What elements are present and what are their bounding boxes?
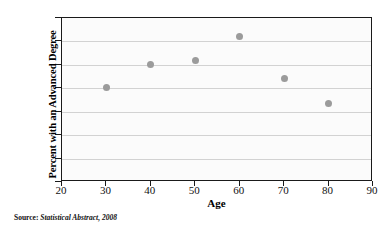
data-point xyxy=(325,100,332,107)
x-axis-tick-label: 30 xyxy=(85,185,125,196)
x-axis-tick-label: 40 xyxy=(130,185,170,196)
plot-canvas xyxy=(62,18,371,180)
plot-area xyxy=(61,17,372,181)
x-axis-tick-label: 80 xyxy=(308,185,348,196)
gridline xyxy=(62,65,371,66)
x-axis-tick-label: 50 xyxy=(174,185,214,196)
data-point xyxy=(236,33,243,40)
gridline xyxy=(62,41,371,42)
x-axis-title: Age xyxy=(61,197,372,209)
source-note: Source: Statistical Abstract, 2008 xyxy=(14,213,117,222)
data-point xyxy=(281,75,288,82)
x-axis-tick-label: 70 xyxy=(263,185,303,196)
scatter-plot-figure: 02468101214 2030405060708090 Percent wit… xyxy=(0,0,389,230)
x-axis-tick-label: 90 xyxy=(352,185,389,196)
gridline xyxy=(62,135,371,136)
x-axis-tick-label: 60 xyxy=(219,185,259,196)
source-label: Source: xyxy=(14,213,38,222)
gridline xyxy=(62,159,371,160)
gridline xyxy=(62,112,371,113)
y-axis-title: Percent with an Advanced Degree xyxy=(47,5,58,205)
data-point xyxy=(147,61,154,68)
data-point xyxy=(103,84,110,91)
source-text: Statistical Abstract, 2008 xyxy=(40,213,117,222)
data-point xyxy=(192,57,199,64)
